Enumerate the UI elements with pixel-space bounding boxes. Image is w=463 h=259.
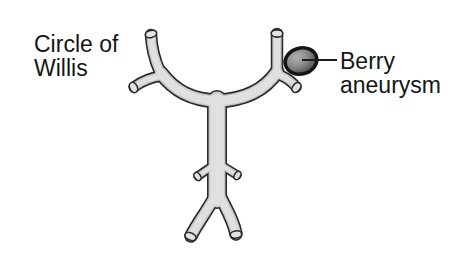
berry-aneurysm-label: Berry aneurysm [340,49,441,97]
circle-of-willis-label: Circle of Willis [34,32,118,80]
vessel-end-cap [271,30,283,38]
diagram-canvas: Circle of Willis Berry aneurysm [0,0,463,259]
